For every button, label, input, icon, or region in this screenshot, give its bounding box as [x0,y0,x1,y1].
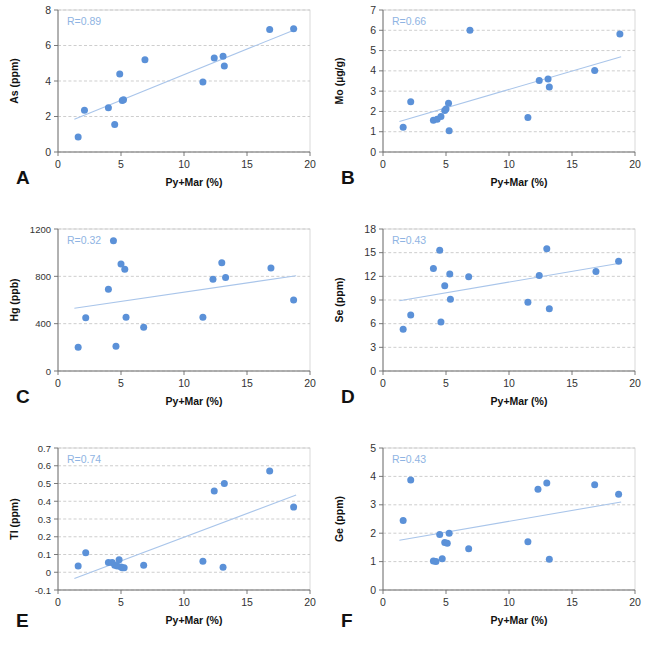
x-axis-tick-label: 0 [380,158,386,170]
data-point [220,53,227,60]
x-axis-tick-label: 10 [178,158,190,170]
y-axis-tick-label: 0 [45,146,51,158]
data-point [446,270,453,277]
y-axis-tick-label: 2 [45,110,51,122]
data-point [543,479,550,486]
x-axis-tick-label: 15 [241,377,253,389]
data-point [111,121,118,128]
x-axis-tick-label: 5 [118,596,124,608]
y-axis-tick-label: 18 [364,223,376,235]
y-axis-tick-label: 6 [45,39,51,51]
data-point [446,127,453,134]
data-point [465,545,472,552]
x-axis-tick-label: 10 [503,596,515,608]
data-point [121,564,128,571]
y-axis-tick-label: 0.7 [38,443,51,454]
y-axis-tick-label: 0 [370,146,376,158]
y-axis-tick-label: 0 [370,365,376,377]
chart-panel-f: 01234505101520Ge (ppm)Py+Mar (%)R=0.43 [325,438,649,657]
scatter-plot-d: 036912151805101520Se (ppm)Py+Mar (%)R=0.… [325,219,649,438]
data-point [615,491,622,498]
data-point [465,273,472,280]
x-axis-title: Py+Mar (%) [166,395,223,407]
data-point [524,538,531,545]
data-point [218,259,225,266]
data-point [140,324,147,331]
plot-frame [383,10,635,152]
scatter-plot-e: -0.100.10.20.30.40.50.60.705101520Tl (pp… [0,438,324,657]
data-point [199,558,206,565]
x-axis-tick-label: 5 [118,158,124,170]
panel-letter-f: F [341,610,353,632]
x-axis-tick-label: 0 [380,377,386,389]
y-axis-title: Se (ppm) [333,278,345,323]
y-axis-tick-label: 0 [46,567,51,578]
data-point [81,107,88,114]
y-axis-tick-label: 9 [370,294,376,306]
y-axis-tick-label: -0.1 [35,585,51,596]
y-axis-tick-label: 1 [370,555,376,567]
correlation-annotation: R=0.43 [392,453,426,465]
trendline [399,57,621,122]
y-axis-tick-label: 4 [45,75,51,87]
data-point [211,487,218,494]
y-axis-tick-label: 0.2 [38,531,51,542]
data-point [591,67,598,74]
x-axis-tick-label: 0 [55,596,61,608]
y-axis-title: As (ppm) [8,58,20,104]
chart-panel-e: -0.100.10.20.30.40.50.60.705101520Tl (pp… [0,438,324,657]
x-axis-title: Py+Mar (%) [166,614,223,626]
data-point [116,556,123,563]
x-axis-tick-label: 20 [304,158,316,170]
data-point [615,258,622,265]
data-point [400,326,407,333]
correlation-annotation: R=0.74 [67,453,101,465]
scatter-plot-a: 0246805101520As (ppm)Py+Mar (%)R=0.89 [0,0,324,219]
x-axis-tick-label: 15 [566,158,578,170]
y-axis-tick-label: 400 [35,318,51,329]
data-point [290,297,297,304]
data-point [221,480,228,487]
y-axis-tick-label: 8 [45,4,51,16]
x-axis-tick-label: 20 [629,596,641,608]
panel-letter-e: E [16,610,29,632]
data-point [466,27,473,34]
plot-frame [383,448,635,590]
data-point [221,62,228,69]
y-axis-title: Hg (ppb) [8,278,20,321]
data-point [592,268,599,275]
data-point [441,282,448,289]
scatter-plot-c: 0400800120005101520Hg (ppb)Py+Mar (%)R=0… [0,219,324,438]
data-point [524,114,531,121]
data-point [75,344,82,351]
y-axis-tick-label: 6 [370,317,376,329]
data-point [437,319,444,326]
data-point [266,26,273,33]
data-point [445,100,452,107]
x-axis-tick-label: 0 [380,596,386,608]
data-point [545,75,552,82]
chart-panel-b: 0123456705101520Mo (µg/g)Py+Mar (%)R=0.6… [325,0,649,219]
panel-letter-b: B [341,167,355,189]
data-point [116,70,123,77]
y-axis-tick-label: 3 [370,85,376,97]
data-point [591,481,598,488]
data-point [437,113,444,120]
x-axis-title: Py+Mar (%) [491,395,548,407]
data-point [436,531,443,538]
data-point [546,305,553,312]
y-axis-tick-label: 15 [364,246,376,258]
x-axis-tick-label: 15 [241,158,253,170]
x-axis-tick-label: 15 [241,596,253,608]
x-axis-title: Py+Mar (%) [491,614,548,626]
x-axis-tick-label: 15 [566,377,578,389]
y-axis-tick-label: 0.3 [38,514,51,525]
panel-letter-a: A [16,167,30,189]
data-point [222,274,229,281]
panel-letter-c: C [16,386,30,408]
y-axis-title: Mo (µg/g) [333,58,345,105]
x-axis-tick-label: 5 [443,596,449,608]
data-point [290,25,297,32]
data-point [290,504,297,511]
data-point [446,530,453,537]
